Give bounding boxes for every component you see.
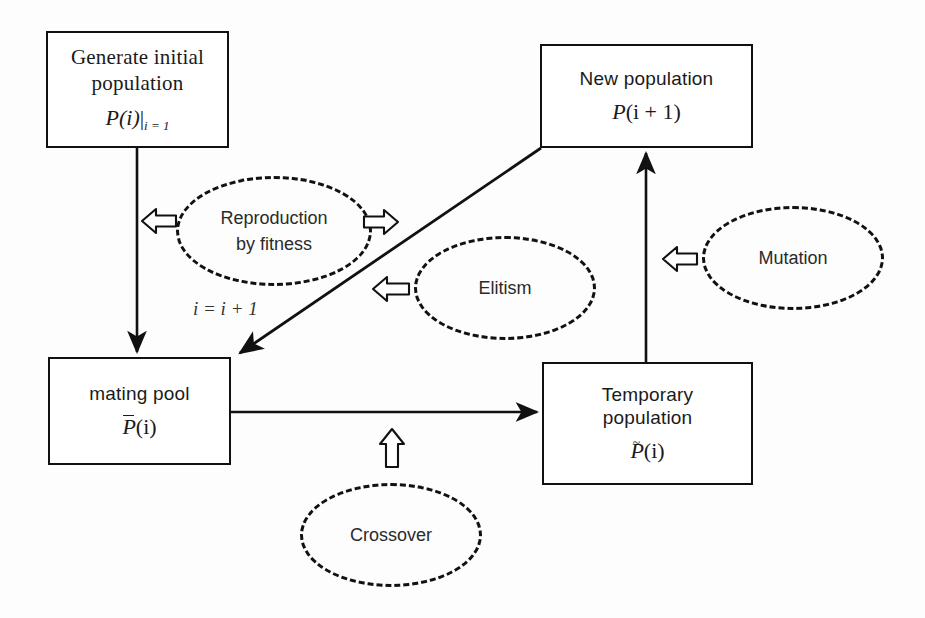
node-mating-pool[interactable]: mating pool P(i): [48, 357, 231, 465]
arrow-up-outline-icon-crossover: [375, 426, 409, 470]
bubble-reproduction-line2: by fitness: [236, 231, 312, 257]
bubble-crossover[interactable]: Crossover: [300, 483, 482, 587]
bubble-mutation-line1: Mutation: [758, 245, 827, 271]
bubble-crossover-line1: Crossover: [350, 522, 432, 548]
arrow-left-outline-icon-mutation: [660, 242, 700, 276]
node-temporary-population-line2: population: [603, 406, 693, 429]
edge-label-iteration: i = i + 1: [193, 298, 258, 320]
node-new-population-formula: P(i + 1): [612, 99, 681, 125]
node-temporary-population-line1: Temporary: [602, 383, 694, 406]
node-mating-pool-line1: mating pool: [89, 382, 189, 405]
node-generate-initial-population-line1: Generate initial: [71, 45, 204, 71]
bubble-reproduction-by-fitness[interactable]: Reproduction by fitness: [176, 176, 372, 286]
node-new-population-line1: New population: [580, 67, 714, 90]
node-generate-initial-population-formula: P(i)|i = 1: [105, 105, 169, 134]
node-generate-initial-population[interactable]: Generate initial population P(i)|i = 1: [46, 31, 229, 148]
bubble-mutation[interactable]: Mutation: [702, 206, 884, 310]
diagram-canvas: Generate initial population P(i)|i = 1 N…: [0, 0, 925, 618]
bubble-reproduction-line1: Reproduction: [220, 205, 327, 231]
arrow-right-outline-icon-reproduction: [361, 205, 401, 239]
arrow-left-outline-icon-elitism: [370, 272, 412, 306]
arrow-left-outline-icon-reproduction: [139, 204, 179, 238]
bubble-elitism-line1: Elitism: [479, 275, 532, 301]
node-mating-pool-formula: P(i): [122, 414, 156, 440]
node-temporary-population-formula: ~P(i): [630, 438, 664, 464]
node-new-population[interactable]: New population P(i + 1): [540, 44, 753, 148]
node-generate-initial-population-line2: population: [92, 71, 184, 97]
node-temporary-population[interactable]: Temporary population ~P(i): [542, 362, 753, 485]
bubble-elitism[interactable]: Elitism: [414, 236, 596, 340]
